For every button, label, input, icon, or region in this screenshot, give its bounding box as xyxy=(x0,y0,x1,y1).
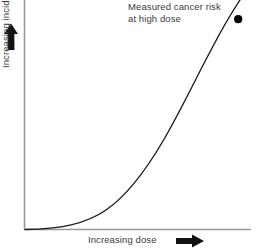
arrow-right-icon xyxy=(176,235,204,248)
measured-point-annotation: Measured cancer risk at high dose xyxy=(128,1,221,25)
dose-response-figure: Measured cancer risk at high dose Increa… xyxy=(0,0,257,251)
y-axis-label: Increasing incidence of tumors xyxy=(0,0,13,68)
annotation-line-2: at high dose xyxy=(128,13,221,25)
measured-point-marker xyxy=(234,15,242,23)
x-axis-label: Increasing dose xyxy=(88,234,157,246)
dose-response-curve xyxy=(25,0,240,230)
chart-canvas xyxy=(0,0,257,251)
annotation-line-1: Measured cancer risk xyxy=(128,1,221,13)
